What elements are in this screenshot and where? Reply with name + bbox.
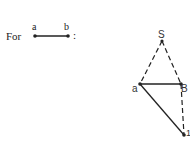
legend-end-dot bbox=[66, 34, 70, 38]
legend: For a b : bbox=[6, 21, 76, 42]
legend-start-dot bbox=[33, 34, 37, 38]
legend-end-label: b bbox=[64, 21, 69, 32]
vertex-label-bottom: 1 bbox=[186, 128, 190, 138]
graph-vertices bbox=[138, 39, 186, 136]
legend-start-label: a bbox=[32, 21, 37, 32]
edge-a-bottom bbox=[140, 84, 184, 135]
vertex-label-b: B bbox=[181, 83, 188, 94]
vertex-label-s: S bbox=[158, 29, 165, 40]
legend-suffix: : bbox=[73, 29, 76, 41]
graph-edges bbox=[140, 41, 184, 135]
diagram-canvas: For a b : S a B 1 bbox=[0, 0, 190, 159]
edge-s-a bbox=[140, 41, 162, 84]
edge-s-b bbox=[162, 41, 181, 84]
vertex-label-a: a bbox=[132, 83, 138, 94]
vertex-a bbox=[138, 82, 142, 86]
legend-prefix: For bbox=[6, 30, 22, 42]
